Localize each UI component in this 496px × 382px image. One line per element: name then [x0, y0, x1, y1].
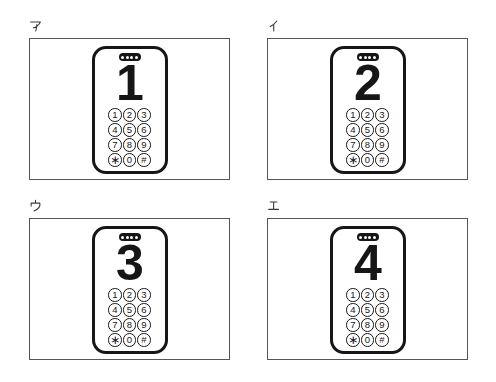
phone-illustration: 1 123456789∗0# [92, 46, 168, 174]
keypad-key: 7 [346, 318, 360, 332]
keypad-key: 9 [375, 318, 389, 332]
keypad-key: 1 [108, 288, 122, 302]
keypad-key: 2 [361, 108, 375, 122]
keypad-key: 5 [361, 123, 375, 137]
panel-label [267, 19, 468, 34]
keypad-key: 1 [346, 108, 360, 122]
katakana-i-icon [267, 19, 280, 32]
keypad-key: 7 [346, 138, 360, 152]
keypad-key: 3 [137, 288, 151, 302]
option-panel-a: 1 123456789∗0# [29, 19, 230, 180]
phone-keypad: 123456789∗0# [346, 108, 389, 167]
keypad-key: # [375, 333, 389, 347]
keypad-key: 4 [346, 303, 360, 317]
keypad-key: 1 [346, 288, 360, 302]
panel-label [29, 199, 230, 214]
keypad-key: 2 [361, 288, 375, 302]
keypad-key: 4 [108, 303, 122, 317]
keypad-key: 2 [123, 108, 137, 122]
phone-illustration: 2 123456789∗0# [330, 46, 406, 174]
keypad-key: 5 [123, 303, 137, 317]
katakana-u-icon [29, 199, 42, 212]
keypad-key: 4 [346, 123, 360, 137]
keypad-key: 8 [123, 318, 137, 332]
phone-keypad: 123456789∗0# [346, 288, 389, 347]
phone-keypad: 123456789∗0# [108, 108, 151, 167]
keypad-key: ∗ [108, 333, 122, 347]
keypad-key: 3 [375, 108, 389, 122]
panel-frame: 1 123456789∗0# [29, 38, 230, 180]
panel-label [29, 19, 230, 34]
keypad-key: ∗ [346, 333, 360, 347]
keypad-key: # [137, 333, 151, 347]
keypad-key: 9 [137, 318, 151, 332]
phone-display-number: 4 [354, 241, 381, 285]
phone-display-number: 2 [354, 61, 381, 105]
keypad-key: 0 [361, 153, 375, 167]
keypad-key: 0 [123, 333, 137, 347]
keypad-key: 4 [108, 123, 122, 137]
keypad-key: 2 [123, 288, 137, 302]
keypad-key: 3 [375, 288, 389, 302]
option-panel-u: 3 123456789∗0# [29, 199, 230, 360]
keypad-key: 6 [137, 303, 151, 317]
keypad-key: 6 [137, 123, 151, 137]
phone-illustration: 4 123456789∗0# [330, 226, 406, 354]
keypad-key: ∗ [346, 153, 360, 167]
katakana-e-icon [267, 199, 280, 212]
keypad-key: 6 [375, 123, 389, 137]
phone-display-number: 3 [116, 241, 143, 285]
keypad-key: 3 [137, 108, 151, 122]
keypad-key: 1 [108, 108, 122, 122]
keypad-key: 8 [123, 138, 137, 152]
keypad-key: 7 [108, 138, 122, 152]
keypad-key: 0 [361, 333, 375, 347]
phone-keypad: 123456789∗0# [108, 288, 151, 347]
option-panel-e: 4 123456789∗0# [267, 199, 468, 360]
keypad-key: 9 [137, 138, 151, 152]
keypad-key: 8 [361, 138, 375, 152]
option-panel-i: 2 123456789∗0# [267, 19, 468, 180]
keypad-key: 9 [375, 138, 389, 152]
keypad-key: 5 [123, 123, 137, 137]
keypad-key: ∗ [108, 153, 122, 167]
keypad-key: 0 [123, 153, 137, 167]
keypad-key: 8 [361, 318, 375, 332]
panel-label [267, 199, 468, 214]
phone-display-number: 1 [116, 61, 143, 105]
keypad-key: 5 [361, 303, 375, 317]
panel-frame: 3 123456789∗0# [29, 218, 230, 360]
katakana-a-icon [29, 19, 42, 32]
keypad-key: # [375, 153, 389, 167]
keypad-key: 7 [108, 318, 122, 332]
keypad-key: 6 [375, 303, 389, 317]
panel-frame: 4 123456789∗0# [267, 218, 468, 360]
keypad-key: # [137, 153, 151, 167]
panel-frame: 2 123456789∗0# [267, 38, 468, 180]
phone-illustration: 3 123456789∗0# [92, 226, 168, 354]
